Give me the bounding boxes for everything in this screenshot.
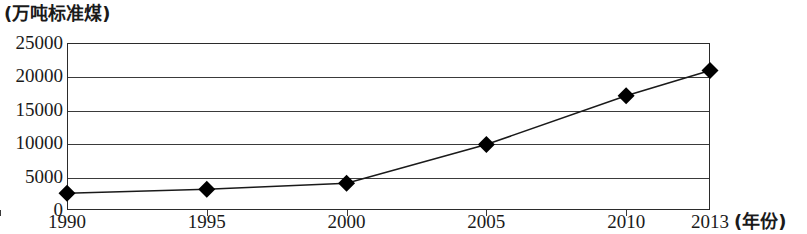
y-tick-label: 10000 xyxy=(0,133,63,152)
x-tick-label: 2010 xyxy=(607,212,645,232)
x-tick-label: 1990 xyxy=(48,212,86,232)
x-tick-label: 1995 xyxy=(188,212,226,232)
x-tick-label: 2000 xyxy=(328,212,366,232)
x-axis-unit-caption: (年份) xyxy=(734,212,786,232)
gridline xyxy=(68,144,709,145)
gridline xyxy=(68,77,709,78)
plot-area xyxy=(67,43,710,210)
x-tick-label: 2013 xyxy=(691,212,729,232)
y-tick-label: 5000 xyxy=(0,167,63,186)
y-tick-label: 25000 xyxy=(0,33,63,52)
y-tick-label: 15000 xyxy=(0,100,63,119)
gridline xyxy=(68,178,709,179)
x-tick-label: 2005 xyxy=(467,212,505,232)
y-tick-label: 20000 xyxy=(0,66,63,85)
x-tick-mark xyxy=(0,210,1,216)
gridline xyxy=(68,111,709,112)
energy-consumption-line-chart: (万吨标准煤) 25000 20000 15000 10000 5000 0 1… xyxy=(0,0,807,234)
y-axis-unit-caption: (万吨标准煤) xyxy=(4,3,110,25)
